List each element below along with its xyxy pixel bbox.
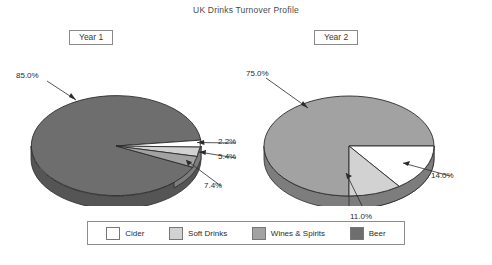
year-1-label: Year 1 [69,30,113,45]
pie-2-slices [264,96,434,196]
legend-label-wines-spirits: Wines & Spirits [271,229,325,238]
pie-2-svg [246,46,492,206]
legend-label-soft-drinks: Soft Drinks [188,229,227,238]
legend-label-beer: Beer [369,229,386,238]
pie-chart-year-1: 85.0% 2.2% 5.4% 7.4% [0,46,246,206]
pie-1-label-0: 85.0% [16,72,39,80]
pie-1-label-1: 2.2% [218,138,236,146]
year-2-label: Year 2 [314,30,358,45]
chart-root: UK Drinks Turnover Profile Year 1 Year 2 [0,0,492,265]
legend-item-wines-spirits: Wines & Spirits [252,227,325,240]
pie-2-label-1: 14.0% [431,172,454,180]
pie-1-label-3: 7.4% [204,182,222,190]
legend-swatch-wines-spirits [252,227,266,240]
pie-chart-year-2: 75.0% 14.0% 11.0% [246,46,492,206]
pie-2-label-2: 11.0% [350,213,372,221]
pie-1-slices [31,96,200,196]
legend: Cider Soft Drinks Wines & Spirits Beer [87,221,405,245]
legend-swatch-beer [350,227,364,240]
legend-swatch-cider [106,227,120,240]
legend-item-soft-drinks: Soft Drinks [169,227,227,240]
legend-label-cider: Cider [125,229,144,238]
legend-item-cider: Cider [106,227,144,240]
pie-1-label-2: 5.4% [218,153,236,161]
pie-2-label-0: 75.0% [246,70,269,78]
chart-title: UK Drinks Turnover Profile [0,5,492,15]
legend-swatch-soft-drinks [169,227,183,240]
legend-item-beer: Beer [350,227,386,240]
